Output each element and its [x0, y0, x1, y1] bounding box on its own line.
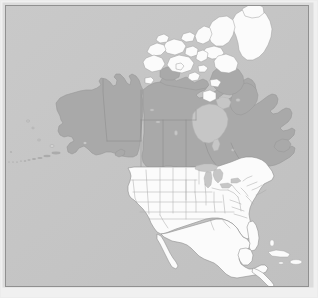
island-offshore-b: [38, 139, 41, 141]
north-america-map-svg: [0, 0, 318, 298]
island-bahamas: [270, 240, 274, 246]
map-figure: [0, 0, 318, 298]
island-jamaica: [278, 262, 283, 264]
lake-great-bear: [150, 109, 154, 111]
island-hispaniola: [290, 260, 302, 265]
island-kodiak-group: [26, 120, 29, 122]
island-gulf-alaska: [83, 142, 87, 144]
island-offshore-a: [32, 127, 35, 129]
lake-winnipeg: [174, 131, 177, 136]
lake-ungava: [236, 98, 240, 101]
map-screenshot: North America reference map: [0, 0, 318, 298]
island-kodiak: [50, 145, 54, 148]
lake-great-slave: [156, 121, 160, 123]
